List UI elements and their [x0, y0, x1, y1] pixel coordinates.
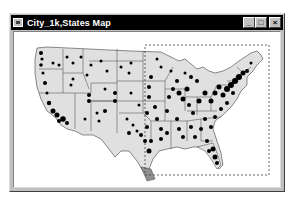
window-title: City_1k,States Map: [27, 18, 111, 28]
us-states-map[interactable]: [14, 32, 281, 188]
maximize-button[interactable]: □: [255, 17, 267, 28]
legend-symbol: [141, 167, 155, 181]
map-window-icon[interactable]: [13, 18, 23, 27]
map-canvas[interactable]: [13, 31, 281, 188]
title-bar[interactable]: City_1k,States Map _ □ ×: [11, 15, 283, 30]
close-button[interactable]: ×: [269, 17, 281, 28]
window-controls: _ □ ×: [243, 17, 281, 28]
map-window: City_1k,States Map _ □ ×: [9, 13, 285, 192]
minimize-button[interactable]: _: [243, 17, 255, 28]
